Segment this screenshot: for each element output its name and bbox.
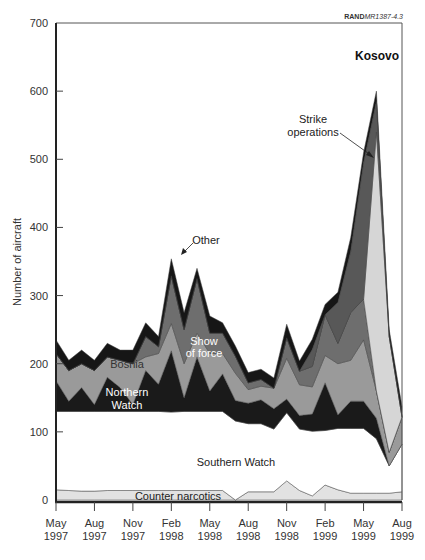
area-layers [56, 91, 402, 500]
x-tick-label: 1997 [82, 530, 106, 542]
other-arrowhead-icon [181, 248, 187, 255]
x-tick-label: May [353, 517, 374, 529]
x-tick-label: Feb [162, 517, 181, 529]
x-tick-label: 1998 [198, 530, 222, 542]
x-tick-label: 1998 [236, 530, 260, 542]
x-tick-label: 1999 [390, 530, 414, 542]
x-tick-label: Aug [238, 517, 258, 529]
x-tick-label: 1998 [159, 530, 183, 542]
y-axis-label: Number of aircraft [11, 218, 23, 306]
label-southern-watch: Southern Watch [197, 456, 275, 468]
label-counter-narcotics: Counter narcotics [135, 490, 222, 502]
label-show-of-force-1: Show [190, 335, 218, 347]
x-tick-label: May [199, 517, 220, 529]
x-tick-label: Nov [123, 517, 143, 529]
label-northern-1: Northern [106, 386, 149, 398]
x-tick-label: Aug [85, 517, 105, 529]
y-tick-label: 700 [30, 17, 48, 29]
label-northern-2: Watch [112, 399, 143, 411]
y-tick-label: 200 [30, 358, 48, 370]
y-tick-label: 600 [30, 85, 48, 97]
x-tick-label: 1999 [313, 530, 337, 542]
x-tick-label: Nov [277, 517, 297, 529]
x-tick-label: May [46, 517, 67, 529]
label-strike-1: Strike [299, 113, 327, 125]
x-tick-label: Feb [316, 517, 335, 529]
label-strike-2: operations [287, 126, 339, 138]
y-tick-label: 400 [30, 221, 48, 233]
y-tick-label: 0 [42, 494, 48, 506]
x-axis-ticks: May1997Aug1997Nov1997Feb1998May1998Aug19… [44, 502, 414, 542]
label-show-of-force-2: of force [186, 347, 223, 359]
y-tick-label: 500 [30, 153, 48, 165]
label-other: Other [192, 234, 220, 246]
y-tick-label: 300 [30, 290, 48, 302]
stacked-area-chart: 0100200300400500600700 May1997Aug1997Nov… [0, 0, 425, 560]
x-tick-label: Aug [392, 517, 412, 529]
x-tick-label: 1999 [351, 530, 375, 542]
y-tick-label: 100 [30, 426, 48, 438]
label-bosnia: Bosnia [110, 358, 145, 370]
x-tick-label: 1997 [44, 530, 68, 542]
x-tick-label: 1998 [274, 530, 298, 542]
label-kosovo: Kosovo [355, 49, 399, 63]
x-tick-label: 1997 [121, 530, 145, 542]
